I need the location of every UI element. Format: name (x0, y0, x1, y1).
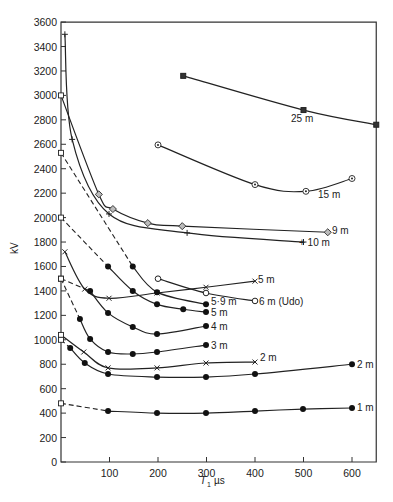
dashed-curve (61, 403, 108, 411)
curve-labels: 25 m 15 m 9 m + 10 m 5 m 6 m (Udo) 5·9 m… (9, 113, 374, 488)
filled-circle-marker (105, 263, 111, 269)
filled-circle-marker (154, 301, 160, 307)
y-tick-label: 3600 (34, 16, 58, 28)
y-tick-label: 3200 (34, 65, 58, 77)
x-marker (62, 249, 67, 254)
square-marker (59, 332, 64, 337)
y-tick-label: 2000 (34, 212, 58, 224)
y-tick-label: 1800 (34, 236, 58, 248)
y-tick-label: 3000 (34, 89, 58, 101)
filled-circle-marker (154, 289, 160, 295)
filled-circle-marker (300, 406, 306, 412)
chart: 0200400600800100012001400160018002000220… (0, 0, 393, 502)
dashed-curve (61, 153, 133, 267)
label-2m: 2 m (357, 359, 374, 370)
diamond-marker (109, 206, 116, 213)
x-tick-label: 100 (101, 467, 119, 479)
curve-3-m (80, 319, 206, 354)
curve-5-m-x- (65, 252, 255, 299)
label-10m: + 10 m (299, 237, 330, 248)
curve-1-m (108, 408, 352, 413)
label-5-9m: 5·9 m (211, 296, 237, 307)
x-tick-label: 400 (246, 467, 264, 479)
open-circle-marker (252, 298, 258, 304)
diamond-marker (179, 223, 186, 230)
filled-circle-marker (349, 361, 355, 367)
markers (59, 31, 379, 416)
square-marker (59, 276, 64, 281)
open-circle-marker (155, 276, 161, 282)
y-tick-label: 1200 (34, 309, 58, 321)
square-marker (59, 150, 64, 155)
filled-circle-marker (130, 263, 136, 269)
label-3m: 3 m (211, 340, 228, 351)
label-9m: 9 m (332, 225, 349, 236)
y-tick-label: 2200 (34, 187, 58, 199)
square-marker (59, 337, 64, 342)
x-axis-label-unit: µs (214, 475, 225, 486)
filled-circle-marker (203, 374, 209, 380)
y-tick-label: 200 (39, 432, 57, 444)
filled-circle-marker (252, 371, 258, 377)
filled-circle-marker (105, 310, 111, 316)
filled-circle-marker (130, 351, 136, 357)
x-tick-label: 500 (295, 467, 313, 479)
y-tick-label: 2600 (34, 138, 58, 150)
filled-circle-marker (154, 331, 160, 337)
diamond-marker (95, 191, 102, 198)
filled-circle-marker (67, 345, 73, 351)
filled-square-marker (301, 108, 306, 113)
plus-marker (62, 31, 68, 37)
diamond-marker (324, 229, 331, 236)
x-axis-label-sub: 1 (207, 481, 211, 488)
filled-circle-marker (203, 342, 209, 348)
curve-25-m (183, 76, 376, 125)
y-tick-label: 2800 (34, 114, 58, 126)
y-tick-label: 0 (51, 456, 57, 468)
filled-circle-marker (154, 410, 160, 416)
filled-circle-marker (87, 288, 93, 294)
label-5m-x: 5 m (258, 274, 275, 285)
filled-square-marker (374, 122, 379, 127)
filled-circle-marker (203, 309, 209, 315)
y-tick-label: 600 (39, 383, 57, 395)
label-15m: 15 m (318, 189, 340, 200)
curve-10-m (65, 34, 304, 242)
filled-circle-marker (154, 349, 160, 355)
x-marker (81, 350, 86, 355)
y-tick-label: 2400 (34, 163, 58, 175)
filled-circle-marker (105, 371, 111, 377)
filled-circle-marker (130, 288, 136, 294)
y-tick-label: 1600 (34, 260, 58, 272)
label-4m: 4 m (211, 321, 228, 332)
plus-marker (184, 230, 190, 236)
filled-square-marker (181, 73, 186, 78)
filled-circle-marker (252, 408, 258, 414)
y-tick-label: 800 (39, 358, 57, 370)
y-tick-label: 3400 (34, 41, 58, 53)
filled-circle-marker (105, 349, 111, 355)
curve-9-m (61, 95, 328, 232)
label-25m: 25 m (291, 113, 313, 124)
filled-circle-marker (203, 301, 209, 307)
filled-circle-marker (87, 336, 93, 342)
x-tick-label: 600 (343, 467, 361, 479)
filled-circle-marker (77, 316, 83, 322)
x-tick-label: 200 (149, 467, 167, 479)
filled-circle-marker (82, 360, 88, 366)
dashed-curve (61, 279, 80, 319)
label-2m-x: 2 m (260, 352, 277, 363)
label-1m: 1 m (357, 402, 374, 413)
square-marker (59, 93, 64, 98)
filled-circle-marker (105, 408, 111, 414)
filled-circle-marker (130, 324, 136, 330)
y-tick-label: 1400 (34, 285, 58, 297)
curves (61, 34, 376, 413)
y-tick-label: 400 (39, 407, 57, 419)
open-circle-marker (203, 290, 209, 296)
y-axis-label: kV (9, 242, 20, 254)
y-tick-label: 1000 (34, 334, 58, 346)
filled-circle-marker (180, 306, 186, 312)
filled-circle-marker (154, 374, 160, 380)
square-marker (59, 401, 64, 406)
